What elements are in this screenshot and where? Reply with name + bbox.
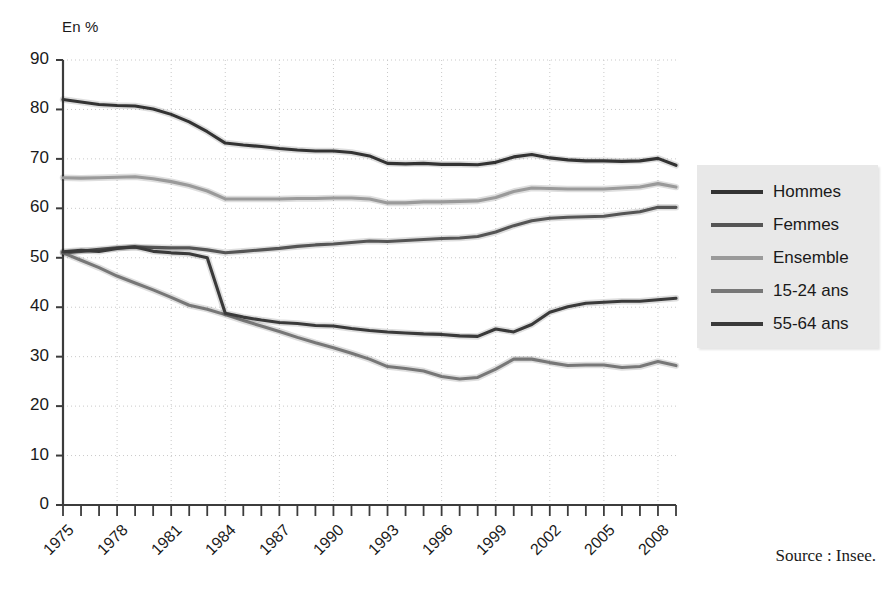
y-tick-label: 50 bbox=[15, 247, 49, 267]
legend-item-label: Femmes bbox=[773, 215, 839, 235]
y-tick-label: 60 bbox=[15, 197, 49, 217]
source-note: Source : Insee. bbox=[775, 546, 876, 566]
employment-rate-line-chart: En % HommesFemmesEnsemble15-24 ans55-64 … bbox=[0, 0, 894, 592]
legend-item-label: 55-64 ans bbox=[773, 314, 849, 334]
legend-item-label: 15-24 ans bbox=[773, 281, 849, 301]
legend-item-55-64-ans[interactable]: 55-64 ans bbox=[711, 311, 849, 337]
legend-item-hommes[interactable]: Hommes bbox=[711, 179, 841, 205]
legend-item-ensemble[interactable]: Ensemble bbox=[711, 245, 849, 271]
y-tick-label: 30 bbox=[15, 346, 49, 366]
legend-item-femmes[interactable]: Femmes bbox=[711, 212, 839, 238]
y-tick-label: 10 bbox=[15, 445, 49, 465]
y-axis-unit-label: En % bbox=[62, 18, 99, 35]
legend-item-label: Ensemble bbox=[773, 248, 849, 268]
series-line-hommes bbox=[63, 100, 676, 166]
y-tick-label: 40 bbox=[15, 296, 49, 316]
y-tick-label: 0 bbox=[15, 494, 49, 514]
legend-item-15-24-ans[interactable]: 15-24 ans bbox=[711, 278, 849, 304]
y-tick-label: 70 bbox=[15, 148, 49, 168]
legend-swatch-icon bbox=[711, 322, 763, 326]
y-tick-label: 20 bbox=[15, 395, 49, 415]
legend-swatch-icon bbox=[711, 190, 763, 194]
chart-legend: HommesFemmesEnsemble15-24 ans55-64 ans bbox=[697, 165, 878, 348]
legend-swatch-icon bbox=[711, 256, 763, 260]
y-tick-label: 90 bbox=[15, 49, 49, 69]
axis-lines bbox=[63, 60, 676, 505]
legend-swatch-icon bbox=[711, 223, 763, 227]
legend-swatch-icon bbox=[711, 289, 763, 293]
y-tick-label: 80 bbox=[15, 98, 49, 118]
legend-item-label: Hommes bbox=[773, 182, 841, 202]
series-line-15-24-ans bbox=[63, 253, 676, 379]
